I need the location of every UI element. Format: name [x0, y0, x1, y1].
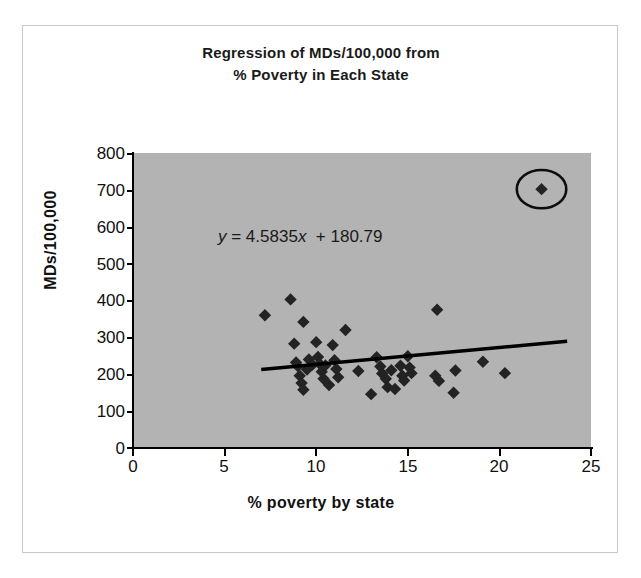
x-tick-5: 5	[204, 458, 244, 475]
y-axis-line	[132, 152, 134, 450]
x-tick-15: 15	[388, 458, 428, 475]
x-tick-0: 0	[113, 458, 153, 475]
page-top-whitespace	[0, 0, 641, 14]
scatter-point	[449, 364, 461, 376]
scatter-point	[310, 336, 322, 348]
y-tick-400: 400	[75, 292, 125, 309]
y-tick-700: 700	[75, 182, 125, 199]
plot-area: y = 4.5835x + 180.79	[133, 153, 591, 448]
scatter-point	[297, 316, 309, 328]
scatter-point	[326, 339, 338, 351]
scatter-point	[339, 324, 351, 336]
scatter-point	[352, 365, 364, 377]
scatter-point	[284, 293, 296, 305]
y-tick-500: 500	[75, 256, 125, 273]
chart-figure-frame: Regression of MDs/100,000 from % Poverty…	[22, 25, 618, 553]
y-tick-0: 0	[75, 440, 125, 457]
scatter-point	[447, 386, 459, 398]
scatter-point	[259, 309, 271, 321]
y-tick-300: 300	[75, 329, 125, 346]
x-tickmark-20	[499, 449, 501, 456]
scatter-point	[365, 388, 377, 400]
x-tick-20: 20	[479, 458, 519, 475]
y-tick-800: 800	[75, 145, 125, 162]
regression-equation-label: y = 4.5835x + 180.79	[218, 227, 382, 247]
y-axis-title: MDs/100,000	[42, 150, 60, 330]
y-axis-tick-labels: 800 700 600 500 400 300 200 100 0	[75, 153, 125, 448]
scatter-plot-canvas	[133, 153, 591, 448]
equation-tail: + 180.79	[306, 227, 382, 246]
x-tickmark-10	[315, 449, 317, 456]
scatter-point	[431, 304, 443, 316]
x-tick-25: 25	[571, 458, 611, 475]
x-axis-title: % poverty by state	[23, 494, 619, 512]
chart-title-line-2: % Poverty in Each State	[23, 64, 619, 86]
scatter-point	[499, 367, 511, 379]
equation-body: = 4.5835	[227, 227, 298, 246]
x-tickmark-25	[590, 449, 592, 456]
x-tickmark-15	[407, 449, 409, 456]
x-axis-line	[132, 447, 593, 449]
y-tick-100: 100	[75, 403, 125, 420]
y-tick-200: 200	[75, 366, 125, 383]
x-tickmark-5	[224, 449, 226, 456]
scatter-point	[477, 356, 489, 368]
chart-title-line-1: Regression of MDs/100,000 from	[202, 44, 440, 61]
data-point-markers	[259, 183, 548, 400]
y-tick-600: 600	[75, 219, 125, 236]
scatter-point	[288, 337, 300, 349]
x-tickmark-0	[132, 449, 134, 456]
equation-y-symbol: y	[218, 227, 227, 246]
scatter-point	[535, 183, 547, 195]
x-tick-10: 10	[296, 458, 336, 475]
x-axis-tick-labels: 0 5 10 15 20 25	[133, 458, 591, 484]
scatter-point	[332, 371, 344, 383]
chart-title: Regression of MDs/100,000 from % Poverty…	[23, 42, 619, 86]
